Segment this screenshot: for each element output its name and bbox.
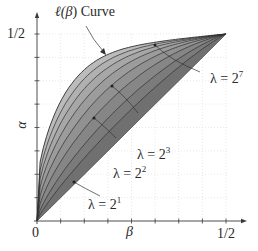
x-axis: [34, 219, 247, 223]
x-tick-label-half: 1/2: [217, 227, 235, 241]
y-tick-label-half: 1/2: [7, 27, 25, 41]
lambda-2-7-label: λ = 27: [210, 70, 243, 86]
x-axis-arrow-icon: [241, 219, 247, 223]
y-axis-arrow-icon: [35, 12, 39, 18]
tradeoff-chart: [0, 0, 258, 251]
lambda-2-1-label: λ = 21: [88, 196, 121, 212]
curve-title: ℓ(β) Curve: [55, 5, 115, 19]
curve-title-pointer: [86, 26, 103, 51]
y-axis-label: α: [15, 121, 29, 128]
lam1-pointer: [74, 182, 100, 196]
lambda-2-3-label: λ = 23: [137, 146, 170, 162]
lambda-2-2-label: λ = 22: [113, 165, 146, 181]
x-axis-label: β: [126, 225, 133, 239]
x-tick-label-zero: 0: [32, 226, 39, 240]
